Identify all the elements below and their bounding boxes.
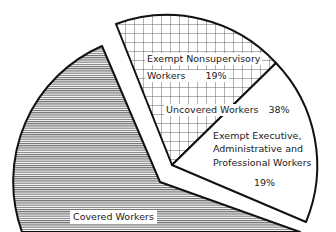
- label-exec-line3: Professional Workers: [213, 157, 312, 169]
- label-uncovered-pct: 38%: [269, 104, 290, 115]
- label-nonsup-line2: Workers19%: [145, 70, 229, 82]
- label-uncovered-text: Uncovered Workers: [166, 104, 259, 115]
- pie-chart: [0, 0, 336, 232]
- label-nonsup-pct: 19%: [205, 70, 226, 81]
- label-nonsup-line1: Exempt Nonsupervisory: [145, 53, 262, 65]
- label-exec-line2: Administrative and: [213, 143, 303, 155]
- label-uncovered: Uncovered Workers38%: [164, 104, 292, 116]
- label-exec-line1: Exempt Executive,: [213, 130, 301, 142]
- label-covered-workers: Covered Workers: [70, 210, 157, 224]
- label-nonsup-workers: Workers: [147, 70, 185, 81]
- label-exec-pct: 19%: [254, 177, 275, 189]
